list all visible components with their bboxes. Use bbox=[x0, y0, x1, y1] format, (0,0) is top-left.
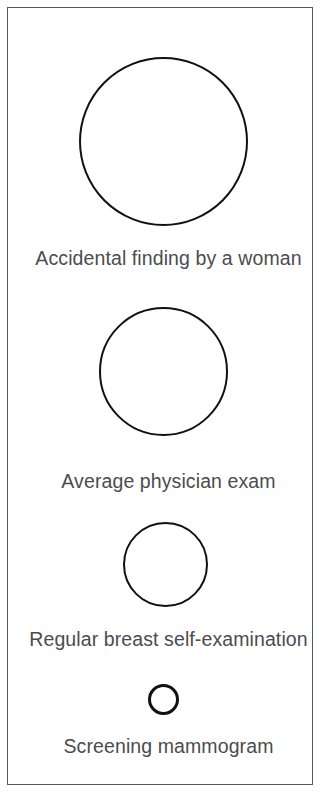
tumor-detection-size-figure: Accidental finding by a woman Average ph… bbox=[0, 0, 321, 800]
circle-average-physician-exam bbox=[99, 307, 228, 436]
label-regular-breast-self-examination: Regular breast self-examination bbox=[8, 630, 321, 650]
label-accidental-finding: Accidental finding by a woman bbox=[8, 249, 321, 269]
circle-regular-breast-self-examination bbox=[123, 522, 208, 607]
circle-screening-mammogram bbox=[148, 684, 179, 715]
label-screening-mammogram: Screening mammogram bbox=[8, 737, 321, 757]
label-average-physician-exam: Average physician exam bbox=[8, 472, 321, 492]
figure-border: Accidental finding by a woman Average ph… bbox=[7, 7, 313, 785]
circle-accidental-finding bbox=[79, 57, 248, 226]
